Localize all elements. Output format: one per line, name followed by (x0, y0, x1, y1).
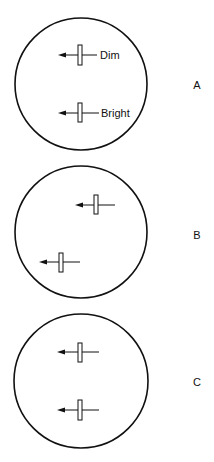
marker-upper (57, 343, 99, 362)
bar-marker (78, 45, 82, 65)
arrowhead-left-icon (39, 260, 47, 265)
marker-bright: Bright (58, 103, 130, 122)
bar-marker (78, 400, 82, 420)
field-circle-a (15, 18, 147, 150)
panel-label-c: C (193, 376, 201, 388)
label-dim: Dim (100, 49, 120, 61)
marker-dim: Dim (58, 45, 120, 65)
arrowhead-left-icon (58, 111, 66, 116)
panel-label-b: B (193, 229, 200, 241)
arrowhead-left-icon (57, 350, 65, 355)
arrowhead-left-icon (57, 408, 65, 413)
panel-c: C (14, 314, 201, 448)
bar-marker (94, 195, 98, 214)
label-bright: Bright (101, 107, 130, 119)
bar-marker (78, 103, 82, 122)
diagram-canvas: Dim Bright A B (0, 0, 214, 462)
arrowhead-left-icon (58, 53, 66, 58)
arrowhead-left-icon (75, 203, 83, 208)
bar-marker (78, 343, 82, 362)
bar-marker (59, 253, 63, 272)
field-circle-c (14, 314, 148, 448)
marker-lower (57, 400, 99, 420)
marker-upper (75, 195, 115, 214)
panel-a: Dim Bright A (15, 18, 201, 150)
panel-b: B (15, 166, 201, 298)
panel-label-a: A (193, 79, 201, 91)
marker-lower (39, 253, 80, 272)
field-circle-b (15, 166, 147, 298)
